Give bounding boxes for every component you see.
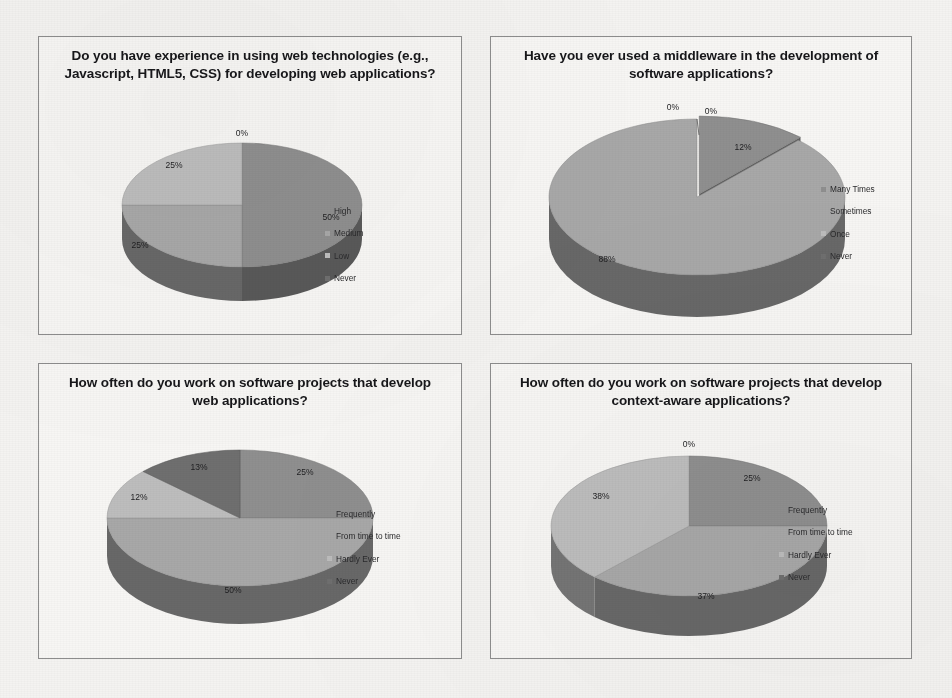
legend-swatch-icon bbox=[327, 556, 332, 561]
legend-swatch-icon bbox=[779, 552, 784, 557]
legend-swatch-icon bbox=[821, 254, 826, 259]
legend-item: From time to time bbox=[779, 528, 853, 536]
legend-swatch-icon bbox=[327, 534, 332, 539]
legend-item: High bbox=[325, 207, 364, 215]
legend-label: From time to time bbox=[788, 528, 853, 536]
legend-label: Many Times bbox=[830, 185, 875, 193]
pie-data-label: 50% bbox=[224, 585, 241, 595]
pie-data-label: 37% bbox=[697, 591, 714, 601]
panel-frame-4: How often do you work on software projec… bbox=[490, 363, 912, 659]
legend-swatch-icon bbox=[325, 253, 330, 258]
legend-item: Medium bbox=[325, 229, 364, 237]
charts-grid: Do you have experience in using web tech… bbox=[0, 0, 952, 698]
chart-legend-4: FrequentlyFrom time to timeHardly EverNe… bbox=[779, 506, 853, 595]
pie-data-label: 0% bbox=[705, 106, 717, 116]
legend-label: Sometimes bbox=[830, 207, 872, 215]
legend-label: From time to time bbox=[336, 532, 401, 540]
chart-legend-2: Many TimesSometimesOnceNever bbox=[821, 185, 875, 274]
pie-data-label: 25% bbox=[743, 473, 760, 483]
legend-label: Never bbox=[336, 577, 358, 585]
chart-legend-3: FrequentlyFrom time to timeHardly EverNe… bbox=[327, 510, 401, 599]
chart-legend-1: HighMediumLowNever bbox=[325, 207, 364, 296]
chart-panel-web-projects-frequency: How often do you work on software projec… bbox=[0, 349, 476, 698]
chart-panel-web-tech-experience: Do you have experience in using web tech… bbox=[0, 0, 476, 349]
legend-swatch-icon bbox=[327, 512, 332, 517]
pie-data-label: 0% bbox=[236, 128, 248, 138]
legend-swatch-icon bbox=[821, 209, 826, 214]
legend-swatch-icon bbox=[779, 530, 784, 535]
legend-label: High bbox=[334, 207, 351, 215]
legend-item: Sometimes bbox=[821, 207, 875, 215]
pie-graphic bbox=[547, 119, 867, 309]
legend-item: Once bbox=[821, 230, 875, 238]
legend-item: Never bbox=[327, 577, 401, 585]
chart-panel-context-aware-projects-frequency: How often do you work on software projec… bbox=[476, 349, 952, 698]
pie-data-label: 88% bbox=[598, 254, 615, 264]
panel-frame-1: Do you have experience in using web tech… bbox=[38, 36, 462, 335]
legend-item: Frequently bbox=[327, 510, 401, 518]
pie-data-label: 0% bbox=[683, 439, 695, 449]
legend-item: Low bbox=[325, 252, 364, 260]
legend-label: Frequently bbox=[336, 510, 375, 518]
legend-item: Never bbox=[779, 573, 853, 581]
pie-data-label: 25% bbox=[165, 160, 182, 170]
legend-label: Low bbox=[334, 252, 349, 260]
pie-data-label: 25% bbox=[131, 240, 148, 250]
chart-panel-middleware-usage: Have you ever used a middleware in the d… bbox=[476, 0, 952, 349]
legend-item: Many Times bbox=[821, 185, 875, 193]
legend-swatch-icon bbox=[325, 209, 330, 214]
legend-label: Never bbox=[788, 573, 810, 581]
pie-data-label: 38% bbox=[592, 491, 609, 501]
pie-data-label: 25% bbox=[296, 467, 313, 477]
pie-data-label: 13% bbox=[190, 462, 207, 472]
legend-item: From time to time bbox=[327, 532, 401, 540]
legend-swatch-icon bbox=[821, 231, 826, 236]
legend-label: Never bbox=[830, 252, 852, 260]
legend-item: Hardly Ever bbox=[779, 551, 853, 559]
legend-swatch-icon bbox=[779, 575, 784, 580]
legend-swatch-icon bbox=[327, 579, 332, 584]
panel-frame-2: Have you ever used a middleware in the d… bbox=[490, 36, 912, 335]
pie-data-label: 0% bbox=[667, 102, 679, 112]
legend-item: Never bbox=[821, 252, 875, 260]
legend-item: Frequently bbox=[779, 506, 853, 514]
legend-label: Frequently bbox=[788, 506, 827, 514]
legend-swatch-icon bbox=[779, 508, 784, 513]
pie-data-label: 12% bbox=[734, 142, 751, 152]
legend-swatch-icon bbox=[821, 187, 826, 192]
panel-frame-3: How often do you work on software projec… bbox=[38, 363, 462, 659]
legend-swatch-icon bbox=[325, 276, 330, 281]
legend-label: Hardly Ever bbox=[336, 555, 379, 563]
legend-swatch-icon bbox=[325, 231, 330, 236]
pie-data-label: 12% bbox=[130, 492, 147, 502]
legend-item: Never bbox=[325, 274, 364, 282]
legend-label: Once bbox=[830, 230, 850, 238]
pie-chart-1: 50%25%25%0% bbox=[39, 37, 461, 334]
legend-label: Never bbox=[334, 274, 356, 282]
legend-label: Medium bbox=[334, 229, 364, 237]
legend-label: Hardly Ever bbox=[788, 551, 831, 559]
legend-item: Hardly Ever bbox=[327, 555, 401, 563]
